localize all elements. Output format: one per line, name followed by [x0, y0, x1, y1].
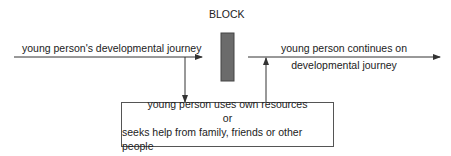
block-bar	[221, 33, 234, 81]
resources-box-line3: seeks help from family, friends or other…	[122, 125, 333, 153]
resources-box-line2: or	[223, 111, 232, 125]
journey-label-left: young person's developmental journey	[22, 42, 201, 54]
resources-box-line1: young person uses own resources	[148, 97, 308, 111]
journey-label-right-line2: developmental journey	[252, 59, 436, 71]
block-label: BLOCK	[209, 8, 245, 20]
journey-label-right-line1: young person continues on	[252, 42, 436, 54]
resources-box: young person uses own resources or seeks…	[121, 102, 334, 147]
